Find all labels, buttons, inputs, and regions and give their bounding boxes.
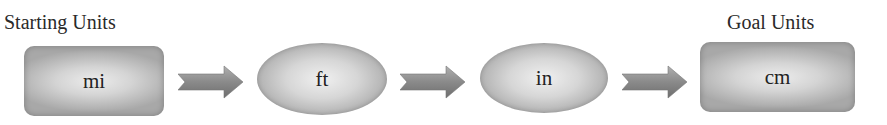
node-start-mi: mi (24, 46, 164, 116)
node-in: in (480, 43, 608, 113)
node-unit-text: mi (83, 69, 105, 94)
node-goal-cm: cm (700, 42, 855, 112)
right-arrow-icon (400, 65, 466, 99)
right-arrow-icon (622, 65, 688, 99)
node-unit-text: in (536, 66, 552, 91)
starting-units-label: Starting Units (4, 11, 116, 33)
goal-units-label: Goal Units (727, 11, 814, 33)
node-ft: ft (257, 43, 387, 115)
node-unit-text: cm (765, 65, 791, 90)
node-unit-text: ft (316, 67, 329, 92)
right-arrow-icon (178, 65, 244, 99)
